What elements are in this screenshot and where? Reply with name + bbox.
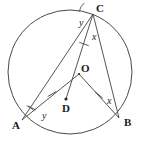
point-label-o: O (81, 62, 90, 74)
angle-label-y-at-c: y (78, 17, 84, 28)
point-label-a: A (12, 119, 20, 131)
radius-o-a (22, 74, 79, 120)
tick-on-radius-ob (95, 92, 103, 98)
point-label-b: B (124, 116, 132, 128)
circle-geometry-figure: C A B O D y x y x (0, 0, 141, 147)
angle-label-x-at-c: x (91, 31, 97, 42)
angle-arc-at-c-y (79, 3, 84, 12)
point-label-c: C (96, 2, 104, 14)
angle-label-x-at-b: x (106, 95, 112, 106)
point-dot-o (78, 73, 80, 75)
point-label-d: D (62, 102, 70, 114)
point-dot-d (64, 97, 67, 100)
main-circle (8, 10, 132, 134)
angle-label-y-at-a: y (41, 110, 47, 121)
geometry-canvas: C A B O D y x y x (0, 0, 141, 147)
